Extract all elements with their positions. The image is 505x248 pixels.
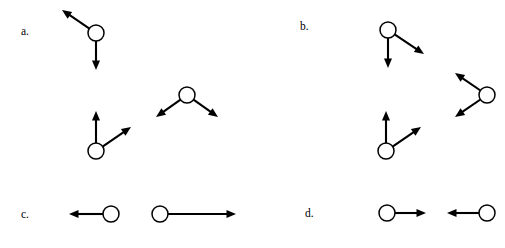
vector-c1-left-short-head — [69, 210, 79, 218]
vector-a3-up-right-shaft — [102, 132, 124, 147]
vector-b1-down-head — [384, 59, 392, 69]
object-c2 — [152, 206, 236, 222]
vector-c2-right-long-head — [227, 210, 237, 218]
vector-d1-right-head — [417, 209, 427, 217]
object-a3 — [88, 111, 131, 159]
object-d1-circle — [379, 205, 395, 221]
vector-a2-down-right-shaft — [193, 99, 211, 112]
object-d1 — [379, 205, 426, 221]
vector-a1-up-left-shaft — [69, 14, 90, 28]
vector-b3-up-head — [382, 111, 390, 121]
panel-group-d — [379, 205, 495, 221]
vector-b2-down-left-head — [455, 108, 465, 117]
vector-a2-down-left-head — [156, 108, 166, 117]
object-c1 — [69, 206, 119, 222]
vector-a2-down-right-head — [208, 108, 218, 117]
vector-a3-up-right-head — [121, 127, 131, 136]
object-b3 — [378, 111, 421, 159]
vector-b3-up-right-head — [411, 127, 421, 136]
panel-group-a — [62, 10, 218, 159]
vector-a3-up-head — [92, 111, 100, 121]
object-d2-circle — [479, 205, 495, 221]
vector-b3-up-right-shaft — [392, 132, 414, 147]
object-a3-circle — [88, 143, 104, 159]
object-c1-circle — [103, 206, 119, 222]
panel-group-b — [378, 22, 495, 159]
object-a1 — [62, 10, 104, 70]
object-b2 — [455, 73, 495, 117]
object-b3-circle — [378, 143, 394, 159]
vector-a2-down-left-shaft — [163, 99, 181, 112]
vector-a1-up-left-head — [62, 10, 72, 19]
object-b1-circle — [380, 22, 396, 38]
vector-b1-down-right-head — [414, 45, 424, 54]
object-d2 — [447, 205, 495, 221]
object-b1 — [380, 22, 424, 68]
vector-a1-down-head — [92, 61, 100, 71]
vector-b2-down-left-shaft — [462, 99, 481, 112]
vector-diagram-figure: a. b. c. d. — [0, 0, 505, 248]
vector-d2-left-head — [447, 209, 457, 217]
object-a2-circle — [179, 87, 195, 103]
object-a1-circle — [88, 25, 104, 41]
vector-b2-up-left-head — [455, 73, 465, 82]
object-c2-circle — [152, 206, 168, 222]
object-b2-circle — [479, 87, 495, 103]
panel-group-c — [69, 206, 236, 222]
vector-b2-up-left-shaft — [462, 78, 481, 91]
vector-arrows-layer — [0, 0, 505, 248]
object-a2 — [156, 87, 218, 117]
vector-b1-down-right-shaft — [394, 34, 417, 49]
